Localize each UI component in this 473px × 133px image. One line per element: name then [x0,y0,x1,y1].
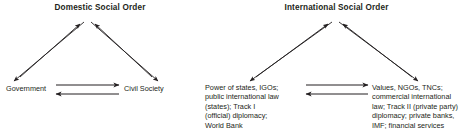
node-values-ngos-line-2: commercial international [372,92,473,101]
node-civil-society-line: Civil Society [124,84,164,93]
node-values-ngos-line-4: diplomacy; private banks, [372,111,473,120]
node-values-ngos: Values, NGOs, TNCs; commercial internati… [372,83,473,130]
node-power-of-states-line-4: (official) diplomacy; [205,111,301,120]
node-power-of-states-line-3: (states); Track I [205,102,301,111]
node-power-of-states: Power of states, IGOs; public internatio… [205,83,301,130]
node-values-ngos-line-3: law; Track II (private party) [372,102,473,111]
node-power-of-states-line-2: public international law [205,92,301,101]
panel-international-social-order: International Social Order Power of stat… [200,0,473,133]
international-left-edge-arrow-down [250,22,332,81]
panel-domestic-social-order: Domestic Social Order Government [0,0,200,133]
node-values-ngos-line-1: Values, NGOs, TNCs; [372,83,473,92]
domestic-left-edge-arrow-down [14,22,84,81]
domestic-arrow-layer [0,0,200,133]
node-civil-society: Civil Society [124,84,164,93]
node-government: Government [6,84,46,93]
node-values-ngos-line-5: IMF; financial services [372,121,473,130]
international-right-edge-arrow-down [339,22,418,81]
domestic-right-edge-arrow-down [91,22,158,81]
node-power-of-states-line-1: Power of states, IGOs; [205,83,301,92]
diagram-social-order: Domestic Social Order Government [0,0,473,133]
node-power-of-states-line-5: World Bank [205,121,301,130]
node-government-line: Government [6,84,46,93]
